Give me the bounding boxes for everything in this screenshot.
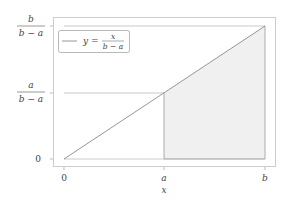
xtick-label-b: b [262,173,268,183]
chart: 0 a b − a b b − a 0 a b x y = x b − a [0,0,293,204]
xtick-label-0: 0 [61,173,67,183]
shaded-area [164,26,265,159]
ytick-label-a-num: a [28,80,33,90]
legend: y = x b − a [59,31,130,53]
ytick-label-0: 0 [35,154,41,164]
legend-y-eq: y = [82,36,99,46]
legend-frac-den: b − a [103,42,123,51]
ytick-label-a-den: b − a [19,94,43,104]
x-axis-label: x [161,185,166,195]
ytick-label-b-num: b [28,14,34,24]
ytick-label-b-den: b − a [19,28,43,38]
xtick-label-a: a [161,173,166,183]
